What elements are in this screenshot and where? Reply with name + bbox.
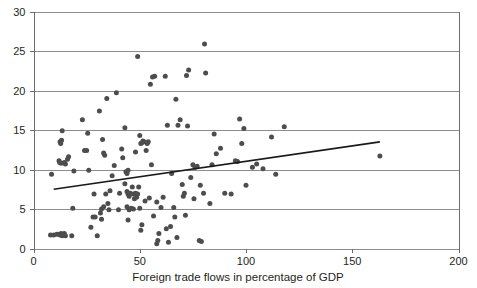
scatter-point: [122, 125, 127, 130]
y-tick-label-25: 25: [13, 45, 25, 57]
scatter-point: [135, 191, 140, 196]
scatter-point: [130, 184, 135, 189]
scatter-point: [198, 183, 203, 188]
scatter-point: [218, 146, 223, 151]
scatter-point: [151, 214, 156, 219]
scatter-point: [183, 213, 188, 218]
scatter-point: [166, 240, 171, 245]
scatter-point: [171, 205, 176, 210]
scatter-point: [106, 207, 111, 212]
scatter-point: [168, 224, 173, 229]
scatter-point: [80, 117, 85, 122]
scatter-point: [155, 238, 160, 243]
scatter-point: [103, 191, 108, 196]
x-tick-label-200: 200: [449, 255, 467, 267]
scatter-point: [126, 168, 131, 173]
scatter-point: [116, 207, 121, 212]
scatter-point: [138, 228, 143, 233]
x-tick-label-100: 100: [237, 255, 255, 267]
scatter-point: [120, 155, 125, 160]
scatter-point: [133, 150, 138, 155]
scatter-point: [85, 131, 90, 136]
scatter-point: [191, 196, 196, 201]
y-tick-label-0: 0: [19, 243, 25, 255]
scatter-point: [152, 74, 157, 79]
scatter-point: [165, 123, 170, 128]
scatter-points: [48, 41, 382, 246]
scatter-point: [105, 201, 110, 206]
gridlines: [34, 13, 459, 250]
scatter-point: [137, 133, 142, 138]
scatter-point: [173, 97, 178, 102]
scatter-point: [122, 181, 127, 186]
scatter-point: [108, 188, 113, 193]
x-tick-label-150: 150: [343, 255, 361, 267]
scatter-point: [144, 148, 149, 153]
scatter-point: [188, 175, 193, 180]
y-tick-label-10: 10: [13, 164, 25, 176]
scatter-point: [102, 153, 107, 158]
scatter-point: [86, 168, 91, 173]
x-tick-label-0: 0: [30, 255, 36, 267]
chart-canvas: 051015202530 050100150200 Foreign trade …: [0, 0, 477, 288]
scatter-point: [93, 214, 98, 219]
trend-line: [54, 142, 380, 189]
x-tick-label-50: 50: [134, 255, 146, 267]
scatter-point: [135, 54, 140, 59]
scatter-point: [131, 207, 136, 212]
scatter-point: [244, 183, 249, 188]
scatter-point: [207, 201, 212, 206]
scatter-point: [143, 199, 148, 204]
scatter-point: [201, 191, 206, 196]
scatter-point: [100, 137, 105, 142]
scatter-point: [212, 131, 217, 136]
scatter-point: [101, 204, 106, 209]
scatter-point: [161, 195, 166, 200]
scatter-point: [114, 90, 119, 95]
scatter-point: [154, 199, 159, 204]
scatter-point: [60, 128, 65, 133]
regression-trend-line: [54, 142, 380, 189]
scatter-point: [110, 173, 115, 178]
scatter-point: [97, 109, 102, 114]
scatter-point: [104, 96, 109, 101]
scatter-point: [148, 82, 153, 87]
scatter-point: [250, 165, 255, 170]
scatter-point: [178, 117, 183, 122]
scatter-point: [63, 161, 68, 166]
scatter-point: [159, 205, 164, 210]
scatter-point: [92, 191, 97, 196]
scatter-point: [95, 233, 100, 238]
scatter-point: [137, 206, 142, 211]
scatter-plot-figure: 051015202530 050100150200 Foreign trade …: [0, 0, 477, 288]
scatter-point: [156, 231, 161, 236]
scatter-point: [254, 161, 259, 166]
y-axis-tick-labels: 051015202530: [13, 6, 25, 255]
scatter-point: [241, 126, 246, 131]
scatter-point: [203, 71, 208, 76]
scatter-point: [84, 148, 89, 153]
scatter-point: [377, 154, 382, 159]
scatter-point: [176, 123, 181, 128]
scatter-point: [126, 218, 131, 223]
scatter-point: [182, 191, 187, 196]
scatter-point: [186, 67, 191, 72]
y-tick-label-30: 30: [13, 6, 25, 18]
scatter-point: [88, 225, 93, 230]
scatter-point: [214, 151, 219, 156]
scatter-point: [146, 139, 151, 144]
scatter-point: [119, 146, 124, 151]
scatter-point: [149, 162, 154, 167]
scatter-point: [174, 235, 179, 240]
y-tick-label-15: 15: [13, 124, 25, 136]
scatter-point: [163, 74, 168, 79]
scatter-point: [269, 135, 274, 140]
x-axis-title: Foreign trade flows in percentage of GDP: [132, 271, 344, 283]
scatter-point: [63, 233, 68, 238]
scatter-point: [99, 217, 104, 222]
scatter-point: [237, 116, 242, 121]
scatter-point: [49, 172, 54, 177]
scatter-point: [222, 191, 227, 196]
scatter-point: [282, 124, 287, 129]
scatter-point: [139, 222, 144, 227]
